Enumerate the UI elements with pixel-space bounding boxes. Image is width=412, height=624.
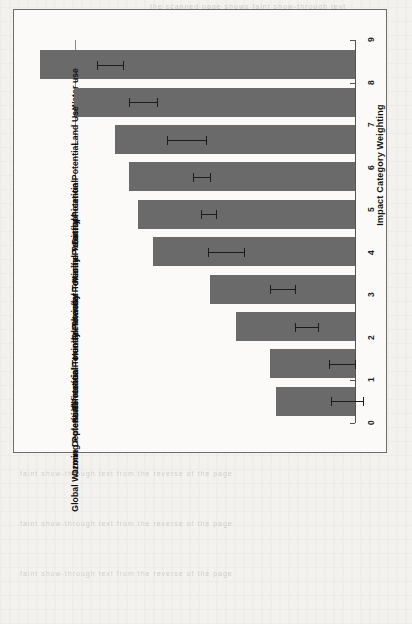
error-bar-cap [270,285,271,294]
axis-title: Impact Category Weighting [375,85,385,245]
error-bar [129,102,157,103]
bar [129,162,355,191]
error-bar [193,177,210,178]
error-bar-cap [97,61,98,70]
error-bar-cap [193,173,194,182]
error-bar [167,140,205,141]
error-bar-cap [295,323,296,332]
axis-tick-label: 5 [367,202,376,218]
error-bar-cap [216,210,217,219]
bar [115,125,355,154]
axis-tick-label: 7 [367,117,376,133]
error-bar [201,214,216,215]
error-bar-cap [318,323,319,332]
error-bar-cap [129,98,130,107]
error-bar [329,364,355,365]
category-label: Land Use [70,106,80,145]
axis-tick-label: 0 [367,415,376,431]
axis-tick-label: 8 [367,74,376,90]
bleed-text-bottom-3: faint show-through text from the reverse… [20,570,233,577]
axis-tick [350,83,355,84]
error-bar-cap [210,173,211,182]
bar [138,200,355,229]
error-bar [331,401,363,402]
error-bar-cap [355,360,356,369]
error-bar-cap [206,136,207,145]
error-bar-cap [329,360,330,369]
category-label: Global Warming Potential [70,405,80,512]
axis-tick [350,423,355,424]
error-bar-cap [123,61,124,70]
bleed-text-bottom-2: faint show-through text from the reverse… [20,520,233,527]
axis-tick-label: 3 [367,287,376,303]
error-bar-cap [363,397,364,406]
axis-tick [350,40,355,41]
error-bar-cap [244,248,245,257]
bleed-text-bottom-1: faint show-through text from the reverse… [20,470,233,477]
axis-tick-label: 1 [367,372,376,388]
error-bar-cap [331,397,332,406]
bar [153,237,355,266]
bar [74,88,355,117]
error-bar [97,65,123,66]
bar [40,50,355,79]
error-bar-cap [201,210,202,219]
error-bar [208,252,244,253]
axis-tick-label: 9 [367,32,376,48]
axis-tick-label: 6 [367,159,376,175]
error-bar-cap [295,285,296,294]
plot-area: Impact Category Weighting 0123456789Wate… [14,10,388,454]
figure-frame: Impact Category Weighting 0123456789Wate… [13,9,387,453]
axis-tick-label: 2 [367,329,376,345]
axis-tick [350,380,355,381]
error-bar-cap [167,136,168,145]
error-bar-cap [208,248,209,257]
error-bar-cap [157,98,158,107]
axis-tick-label: 4 [367,244,376,260]
error-bar [270,289,296,290]
error-bar [295,327,318,328]
